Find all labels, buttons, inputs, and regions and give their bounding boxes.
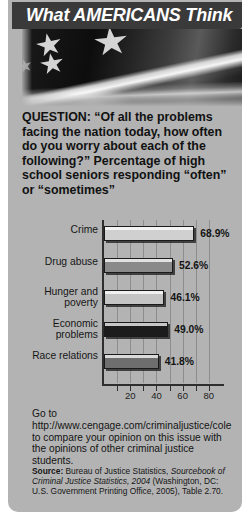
chart-gridline [209, 220, 210, 383]
chart-bar-highlight [105, 227, 193, 230]
chart-x-tick-minor [117, 386, 118, 391]
chart-bar [104, 258, 173, 273]
figure-banner: What AMERICANS Think [12, 2, 242, 29]
chart-x-tick-label: 60 [177, 390, 188, 401]
source-note: Source: Bureau of Justice Statistics, So… [32, 466, 228, 497]
banner-title-part1: What [26, 5, 73, 25]
bar-chart: 20406080 Crime68.9%Drug abuse52.6%Hunger… [16, 216, 236, 398]
banner-title-emphasis: AMERICANS [73, 5, 180, 25]
chart-x-axis [102, 384, 224, 386]
chart-x-tick-minor [170, 386, 171, 391]
chart-category-label: Crime [14, 224, 98, 235]
chart-value-label: 46.1% [170, 292, 199, 303]
banner-title-part3: Think [181, 5, 233, 25]
chart-value-label: 52.6% [179, 260, 208, 271]
chart-x-tick-minor [143, 386, 144, 391]
chart-bar [104, 354, 159, 369]
chart-bar [104, 226, 194, 241]
chart-x-tick-label: 20 [125, 390, 136, 401]
chart-category-label: Race relations [14, 350, 98, 361]
chart-bar [104, 290, 164, 305]
american-flag-image [22, 29, 242, 109]
chart-x-tick-label: 40 [151, 390, 162, 401]
flag-star-icon [93, 29, 130, 59]
chart-bar-highlight [105, 259, 172, 262]
chart-bar-highlight [105, 323, 167, 326]
chart-category-label: Hunger and poverty [14, 286, 98, 309]
source-label: Source: [32, 466, 63, 476]
chart-category-label: Drug abuse [14, 256, 98, 267]
flag-star-icon [34, 31, 64, 60]
chart-value-label: 49.0% [174, 324, 203, 335]
promo-text: Go to http://www.cengage.com/criminaljus… [32, 408, 222, 467]
flag-star-icon [38, 51, 65, 77]
chart-bar-highlight [105, 355, 158, 358]
banner-title: What AMERICANS Think [26, 5, 232, 26]
chart-bar-highlight [105, 291, 163, 294]
source-text-before: Bureau of Justice Statistics, [63, 466, 171, 476]
flag-bottom-fade [22, 93, 242, 109]
chart-bar [104, 322, 168, 337]
chart-x-tick-label: 80 [204, 390, 215, 401]
chart-x-tick-minor [196, 386, 197, 391]
chart-value-label: 68.9% [200, 228, 229, 239]
what-americans-think-figure: What AMERICANS Think QUESTION: “Of all t… [8, 0, 242, 512]
chart-value-label: 41.8% [165, 356, 194, 367]
chart-category-label: Economic problems [14, 318, 98, 341]
question-text: QUESTION: “Of all the problems facing th… [22, 110, 228, 198]
